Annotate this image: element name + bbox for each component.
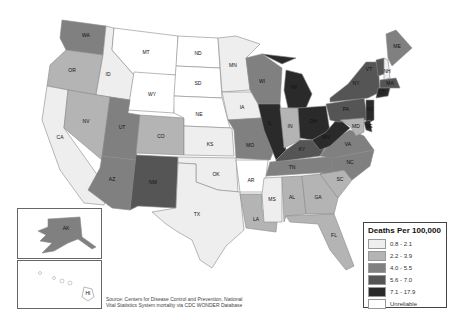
- legend-item: 0.8 - 2.1: [368, 238, 442, 250]
- label-ak: AK: [63, 225, 70, 231]
- state-fl[interactable]: [286, 214, 354, 270]
- legend-label: 7.1 - 17.9: [390, 289, 415, 295]
- state-ct[interactable]: [376, 88, 390, 98]
- legend-item: 4.0 - 5.5: [368, 262, 442, 274]
- state-wy[interactable]: [128, 72, 176, 113]
- state-sd[interactable]: [174, 66, 222, 98]
- legend-label: 4.0 - 5.5: [390, 265, 412, 271]
- state-wa[interactable]: [60, 20, 106, 55]
- source-line-2: Vital Statistics System mortality via CD…: [106, 302, 346, 308]
- state-nh[interactable]: [384, 58, 390, 80]
- label-hi: HI: [86, 290, 91, 296]
- legend-swatch: [368, 275, 386, 285]
- legend-item: 7.1 - 17.9: [368, 286, 442, 298]
- alaska-inset: AK: [17, 208, 102, 259]
- legend-swatch: [368, 263, 386, 273]
- legend-item: 2.2 - 3.9: [368, 250, 442, 262]
- legend-label: 0.8 - 2.1: [390, 241, 412, 247]
- legend-item: Unreliable: [368, 298, 442, 310]
- legend-title: Deaths Per 100,000: [368, 226, 442, 235]
- legend-item: 5.6 - 7.0: [368, 274, 442, 286]
- legend-swatch: [368, 251, 386, 261]
- state-ny[interactable]: [330, 62, 380, 102]
- state-ms[interactable]: [262, 177, 282, 222]
- legend: Deaths Per 100,000 0.8 - 2.1 2.2 - 3.9 4…: [363, 222, 447, 308]
- state-ak[interactable]: [38, 217, 96, 253]
- legend-label: 2.2 - 3.9: [390, 253, 412, 259]
- state-me[interactable]: [386, 30, 412, 66]
- legend-label: Unreliable: [390, 301, 417, 307]
- legend-swatch: [368, 299, 386, 309]
- legend-label: 5.6 - 7.0: [390, 277, 412, 283]
- legend-swatch: [368, 239, 386, 249]
- state-ma[interactable]: [380, 78, 400, 88]
- legend-swatch: [368, 287, 386, 297]
- state-nm[interactable]: [130, 155, 178, 210]
- hawaii-inset: HI: [17, 260, 102, 309]
- state-ks[interactable]: [184, 126, 234, 156]
- state-co[interactable]: [136, 115, 184, 155]
- state-nd[interactable]: [176, 36, 220, 68]
- source-note: Source: Centers for Disease Control and …: [106, 296, 346, 308]
